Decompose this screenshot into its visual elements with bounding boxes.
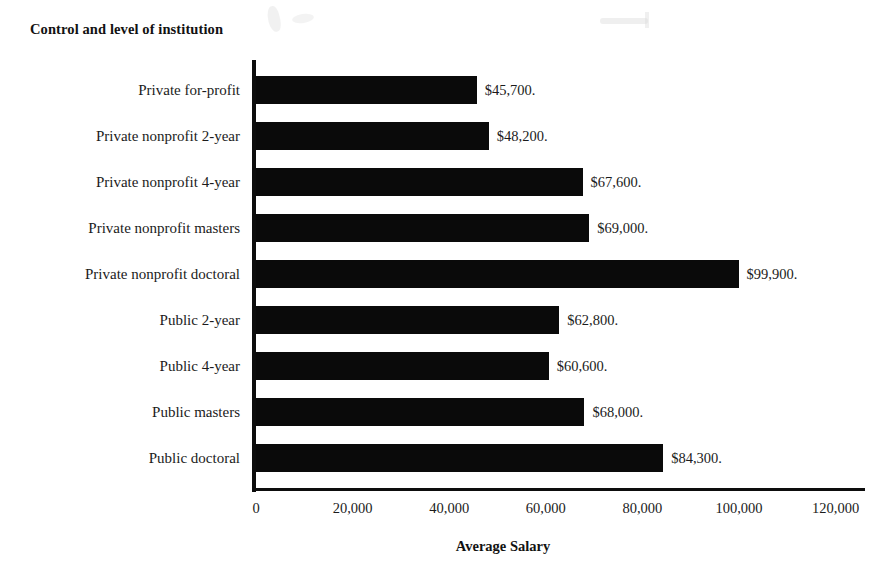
bar-value-label: $68,000. (592, 398, 643, 426)
bar-row: Private nonprofit 4-year$67,600. (0, 168, 896, 196)
category-label: Public masters (0, 398, 240, 426)
category-label: Public 2-year (0, 306, 240, 334)
bar-value-label: $60,600. (557, 352, 608, 380)
category-label: Private nonprofit 4-year (0, 168, 240, 196)
category-label: Private nonprofit masters (0, 214, 240, 242)
bar-chart: Control and level of institution Private… (0, 0, 896, 580)
bar-value-label: $48,200. (497, 122, 548, 150)
bar-value-label: $84,300. (671, 444, 722, 472)
bar-row: Private nonprofit masters$69,000. (0, 214, 896, 242)
bar-row: Public 4-year$60,600. (0, 352, 896, 380)
bar-value-label: $67,600. (591, 168, 642, 196)
x-tick-label: 60,000 (526, 500, 566, 517)
category-label: Public 4-year (0, 352, 240, 380)
x-tick-label: 20,000 (333, 500, 373, 517)
bar-row: Private nonprofit doctoral$99,900. (0, 260, 896, 288)
bar-value-label: $99,900. (747, 260, 798, 288)
plot-area: Private for-profit$45,700.Private nonpro… (0, 0, 896, 580)
bar-row: Public masters$68,000. (0, 398, 896, 426)
bar-row: Public 2-year$62,800. (0, 306, 896, 334)
category-label: Private for-profit (0, 76, 240, 104)
x-axis-title-text: Average Salary (456, 538, 550, 555)
bar (256, 214, 589, 242)
bar (256, 260, 739, 288)
x-axis-line (252, 488, 865, 491)
x-tick-label: 40,000 (429, 500, 469, 517)
bar-value-label: $62,800. (567, 306, 618, 334)
bar-row: Private for-profit$45,700. (0, 76, 896, 104)
bar-row: Public doctoral$84,300. (0, 444, 896, 472)
x-tick-label: 0 (252, 500, 259, 517)
x-tick-label: 120,000 (812, 500, 859, 517)
bar (256, 306, 559, 334)
bar (256, 122, 489, 150)
bar (256, 352, 549, 380)
bar-value-label: $69,000. (597, 214, 648, 242)
bar-row: Private nonprofit 2-year$48,200. (0, 122, 896, 150)
category-label: Private nonprofit doctoral (0, 260, 240, 288)
x-tick-label: 100,000 (715, 500, 762, 517)
bar (256, 76, 477, 104)
bar-value-label: $45,700. (485, 76, 536, 104)
category-label: Private nonprofit 2-year (0, 122, 240, 150)
x-axis-title: Average Salary (0, 538, 896, 555)
bar (256, 168, 583, 196)
bar (256, 444, 663, 472)
category-label: Public doctoral (0, 444, 240, 472)
x-tick-label: 80,000 (622, 500, 662, 517)
bar (256, 398, 584, 426)
